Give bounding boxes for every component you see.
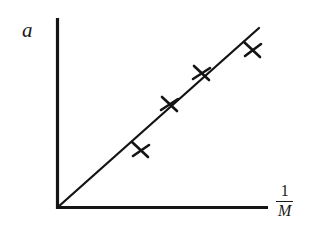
y-axis-label: a [22,20,33,41]
x-axis-label-fraction: 1 M [276,183,293,219]
x-axis-label: 1 M [276,183,293,219]
figure-canvas: a 1 M [0,0,310,228]
plot-svg [0,0,310,228]
x-axis-label-numerator: 1 [276,183,293,200]
plot-background [0,0,310,228]
x-axis-label-denominator: M [276,203,293,220]
